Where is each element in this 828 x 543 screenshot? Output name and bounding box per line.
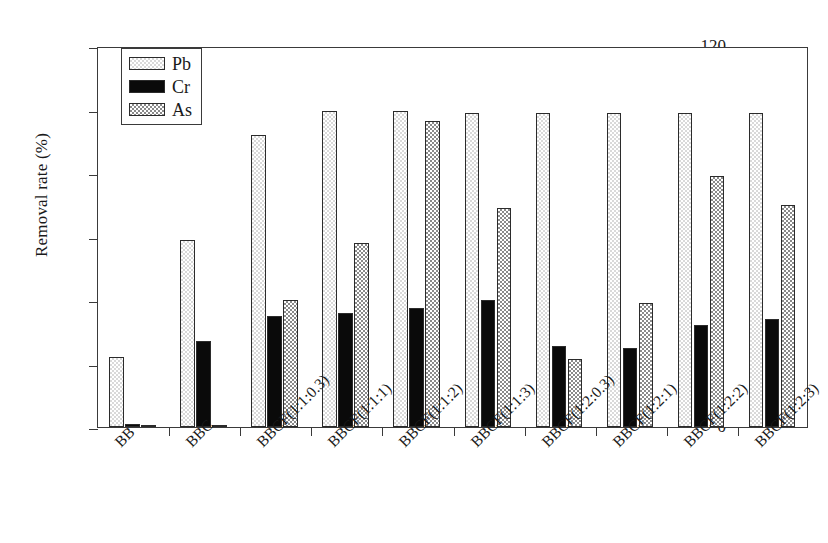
legend-label: Cr xyxy=(172,78,190,96)
x-axis-tick xyxy=(667,427,668,436)
bar-pb xyxy=(678,113,693,427)
y-axis-tick xyxy=(89,366,98,367)
y-axis-tick xyxy=(89,112,98,113)
bar-as xyxy=(141,425,156,427)
bar-as xyxy=(710,176,725,427)
x-axis-tick xyxy=(240,427,241,436)
bar-pb xyxy=(536,113,551,427)
legend-item: Cr xyxy=(129,77,192,96)
bar-pb xyxy=(393,111,408,427)
bar-group xyxy=(382,48,453,427)
bar-pb xyxy=(749,113,764,427)
x-axis-tick xyxy=(738,427,739,436)
bar-group xyxy=(311,48,382,427)
bar-pb xyxy=(251,135,266,427)
y-axis-tick xyxy=(89,48,98,49)
bar-as xyxy=(781,205,796,427)
y-axis-tick xyxy=(89,175,98,176)
x-axis-tick xyxy=(169,427,170,436)
legend-swatch-cr xyxy=(129,80,165,93)
x-axis-tick xyxy=(382,427,383,436)
bar-group xyxy=(738,48,809,427)
legend-label: As xyxy=(172,101,192,119)
x-axis-tick xyxy=(454,427,455,436)
bar-group xyxy=(525,48,596,427)
y-axis-tick xyxy=(89,239,98,240)
y-axis-tick xyxy=(89,429,98,430)
bar-pb xyxy=(465,113,480,427)
x-axis-tick xyxy=(525,427,526,436)
y-axis-tick xyxy=(89,302,98,303)
bar-group xyxy=(240,48,311,427)
legend-label: Pb xyxy=(172,55,191,73)
bar-cr xyxy=(409,308,424,427)
legend-swatch-as xyxy=(129,103,165,116)
legend-item: Pb xyxy=(129,54,192,73)
bar-as xyxy=(425,121,440,427)
bar-group xyxy=(667,48,738,427)
plot-area xyxy=(97,47,808,428)
legend-swatch-pb xyxy=(129,57,165,70)
bar-cr xyxy=(196,341,211,427)
legend-item: As xyxy=(129,100,192,119)
bar-cr xyxy=(481,300,496,427)
bar-pb xyxy=(109,357,124,427)
bar-group xyxy=(454,48,525,427)
bar-group xyxy=(596,48,667,427)
bar-pb xyxy=(180,240,195,427)
x-axis-tick xyxy=(311,427,312,436)
x-axis-tick xyxy=(596,427,597,436)
bar-as xyxy=(497,208,512,427)
bar-chart-figure: Removal rate (%) 020406080100120 BBBBCBB… xyxy=(0,0,828,543)
y-axis-title: Removal rate (%) xyxy=(32,95,52,295)
chart-legend: PbCrAs xyxy=(121,48,202,125)
